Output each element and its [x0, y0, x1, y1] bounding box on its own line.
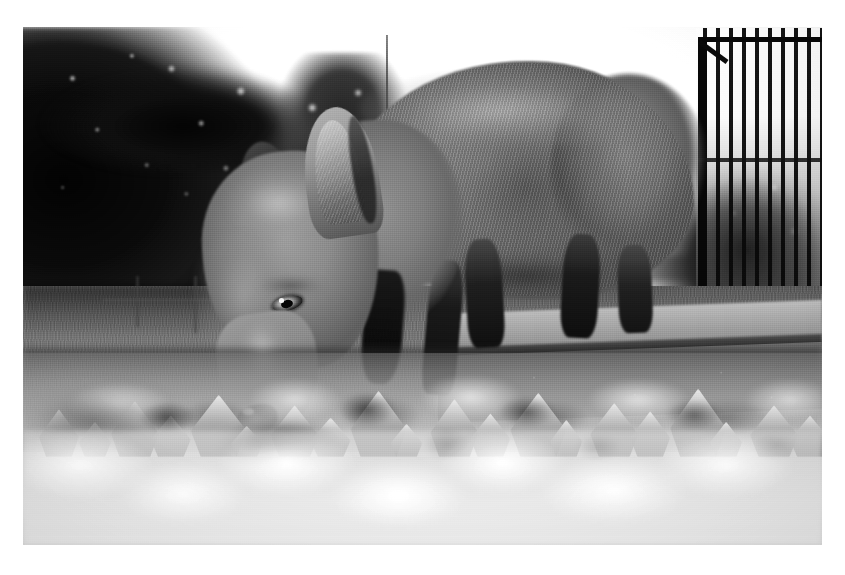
fox-eye-glint [279, 298, 285, 302]
fox-brow-shadow [255, 273, 327, 294]
leaf-litter-foreground [23, 431, 822, 545]
page-root [0, 0, 845, 575]
photograph [23, 27, 822, 545]
fox-hind-leg-far [617, 244, 654, 333]
fox-hind-leg-near [560, 233, 602, 338]
